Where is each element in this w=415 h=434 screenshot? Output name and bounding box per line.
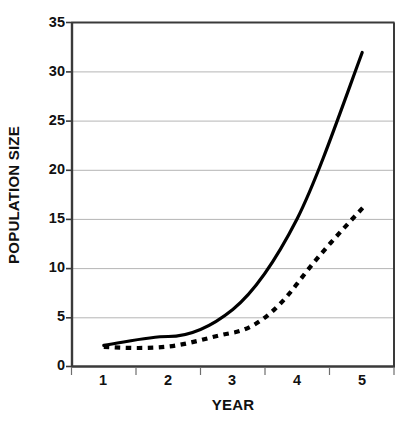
x-tick-label-4: 4: [277, 373, 317, 388]
x-axis-title-container: YEAR: [71, 396, 395, 414]
series-solid-curve: [104, 53, 362, 346]
population-growth-chart: 35 30 25 20 15 10 5 0 POPULATION SIZE: [0, 0, 415, 434]
gridlines: [72, 72, 394, 318]
plot-frame: [71, 22, 395, 367]
plot-area: [0, 0, 415, 434]
x-axis-title: YEAR: [212, 396, 254, 413]
x-tick-label-5: 5: [342, 373, 382, 388]
series-dashed-curve: [104, 206, 365, 348]
x-tick-label-3: 3: [212, 373, 252, 388]
x-tick-label-2: 2: [148, 373, 188, 388]
x-tick-label-1: 1: [83, 373, 123, 388]
